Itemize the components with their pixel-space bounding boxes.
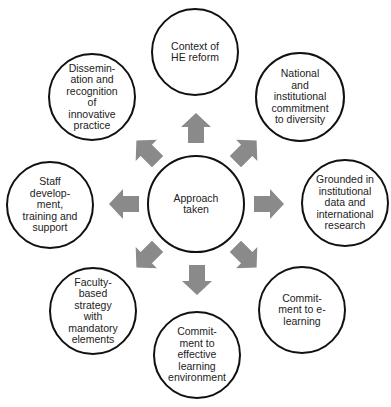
node-label: Commit- ment to e- learning [278,293,325,328]
node-label: National and institutional commitment to… [271,68,328,126]
arrow-down-right-icon [230,241,262,273]
node-label: Dissemin- ation and recognition of innov… [66,63,117,132]
node-label: Grounded in institutional data and inter… [316,174,374,232]
node-label: Context of HE reform [171,41,219,64]
node-grounded-in-data: Grounded in institutional data and inter… [301,159,389,247]
arrow-right-icon [253,188,285,220]
node-label: Commit- ment to effective learning envir… [168,326,226,384]
arrow-up-left-icon [131,135,163,167]
arrow-up-right-icon [230,135,262,167]
node-dissemination: Dissemin- ation and recognition of innov… [48,53,136,141]
center-node-approach-taken: Approach taken [147,155,245,253]
node-faculty-based-strategy: Faculty- based strategy with mandatory e… [49,267,137,355]
approach-diagram: Approach taken Context of HE reform Nati… [0,0,391,407]
node-effective-learning-environment: Commit- ment to effective learning envir… [153,311,241,399]
node-staff-development: Staff develop- ment, training and suppor… [6,161,94,249]
arrow-up-icon [180,112,212,144]
arrow-left-icon [108,188,140,220]
arrow-down-left-icon [131,241,163,273]
node-context-of-he-reform: Context of HE reform [151,8,239,96]
center-node-label: Approach taken [174,193,219,216]
node-label: Staff develop- ment, training and suppor… [23,176,78,234]
arrow-down-icon [181,264,213,296]
node-commitment-to-diversity: National and institutional commitment to… [255,52,345,142]
node-commitment-to-elearning: Commit- ment to e- learning [258,266,346,354]
node-label: Faculty- based strategy with mandatory e… [68,277,118,346]
